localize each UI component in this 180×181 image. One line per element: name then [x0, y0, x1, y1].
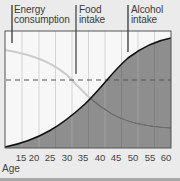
bottom-border	[0, 178, 180, 181]
x-tick: 55	[145, 152, 156, 163]
x-tick: 35	[78, 152, 89, 163]
energy-consumption-label: Energy consumption	[14, 5, 70, 25]
x-axis-label: Age	[2, 163, 20, 174]
alcohol-label-line2: intake	[131, 15, 163, 25]
x-tick: 20	[29, 152, 40, 163]
alcohol-intake-label: Alcohol intake	[131, 5, 163, 25]
x-tick: 15	[16, 152, 27, 163]
x-tick: 40	[95, 152, 106, 163]
food-label-line2: intake	[79, 15, 105, 25]
energy-label-line2: consumption	[14, 15, 70, 25]
food-intake-label: Food intake	[79, 5, 105, 25]
x-tick: 60	[161, 152, 172, 163]
x-tick: 50	[128, 152, 139, 163]
x-tick: 45	[111, 152, 122, 163]
x-tick: 25	[45, 152, 56, 163]
x-tick: 30	[62, 152, 73, 163]
